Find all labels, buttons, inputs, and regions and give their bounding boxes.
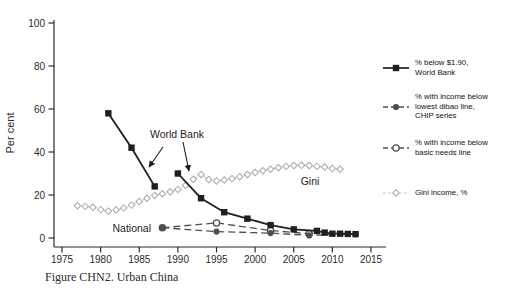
legend-label-basic-needs: % with income below basic needs line [415, 138, 488, 157]
x-tick-label: 1990 [167, 254, 190, 265]
figure-urban-china: 0204060801001975198019851990199520002005… [0, 0, 513, 292]
legend-item-dibao: % with income below lowest dibao line, C… [383, 92, 488, 121]
legend: % below $1.90, World Bank % with income … [383, 50, 511, 215]
annotation-arrow [149, 147, 163, 167]
annotation-gini: Gini [301, 175, 320, 187]
legend-item-gini: Gini income, % [383, 187, 467, 199]
dashed-open-circle-line-icon [383, 142, 409, 154]
y-tick-label: 100 [28, 18, 45, 29]
y-tick-label: 20 [34, 190, 46, 201]
y-tick-label: 80 [34, 61, 46, 72]
annotation-national: National [112, 222, 151, 234]
x-tick-label: 2005 [283, 254, 306, 265]
dashed-open-diamond-line-icon [383, 187, 409, 199]
series-wb-early [105, 110, 158, 189]
y-tick-label: 40 [34, 147, 46, 158]
legend-label-world-bank: % below $1.90, World Bank [415, 58, 468, 77]
annotation-world-bank: World Bank [150, 128, 205, 140]
legend-item-basic-needs: % with income below basic needs line [383, 138, 488, 157]
series-gini [74, 162, 343, 214]
series-dibao [159, 225, 358, 239]
y-tick-label: 0 [39, 233, 45, 244]
series-wb-late [175, 170, 359, 237]
x-tick-label: 1995 [205, 254, 228, 265]
x-tick-label: 2010 [321, 254, 344, 265]
y-tick-label: 60 [34, 104, 46, 115]
solid-square-line-icon [383, 62, 409, 74]
legend-item-world-bank: % below $1.90, World Bank [383, 58, 468, 77]
x-tick-label: 2015 [360, 254, 383, 265]
legend-label-dibao: % with income below lowest dibao line, C… [415, 92, 488, 121]
x-tick-label: 1985 [128, 254, 151, 265]
dashed-filled-circle-line-icon [383, 101, 409, 113]
annotation-arrow [183, 142, 189, 171]
figure-caption: Figure CHN2. Urban China [45, 270, 178, 285]
legend-label-gini: Gini income, % [415, 188, 467, 198]
x-tick-label: 1975 [51, 254, 74, 265]
x-tick-label: 2000 [244, 254, 267, 265]
y-axis-label: Per cent [4, 98, 16, 168]
x-tick-label: 1980 [90, 254, 113, 265]
